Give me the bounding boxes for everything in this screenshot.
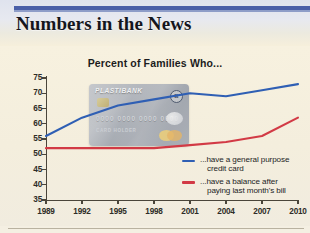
y-tick-label: 65	[16, 104, 42, 113]
card-bank-mark-icon: B	[170, 90, 183, 103]
legend-label: ...have a balance afterpaying last month…	[200, 177, 308, 196]
x-tick-label: 1992	[65, 207, 99, 216]
card-logo-right-icon	[167, 130, 182, 141]
x-tick-label: 2010	[281, 207, 310, 216]
legend-label: ...have a general purposecredit card	[200, 155, 308, 174]
legend-item: ...have a balance afterpaying last month…	[182, 177, 308, 196]
card-holder-text: CARD HOLDER	[96, 128, 137, 133]
y-tick-label: 35	[16, 195, 42, 204]
x-tick-label: 1995	[101, 207, 135, 216]
y-axis-line	[46, 76, 47, 202]
y-tick-label: 70	[16, 88, 42, 97]
legend-swatch-red	[182, 181, 195, 183]
x-tick	[261, 200, 262, 204]
y-tick-label: 40	[16, 180, 42, 189]
y-tick-label: 45	[16, 165, 42, 174]
y-tick	[42, 77, 46, 78]
chart-title: Percent of Families Who...	[0, 57, 310, 69]
y-tick	[42, 123, 46, 124]
numbers-in-the-news-infobox: Numbers in the News Percent of Families …	[0, 0, 310, 233]
header-accent-bar-secondary	[14, 10, 310, 12]
legend-item: ...have a general purposecredit card	[182, 155, 308, 174]
y-tick-label: 55	[16, 134, 42, 143]
chart-legend: ...have a general purposecredit card ...…	[182, 155, 308, 199]
y-tick-label: 75	[16, 73, 42, 82]
x-tick	[153, 200, 154, 204]
bottom-divider	[8, 228, 304, 229]
card-chip-icon	[97, 98, 109, 107]
x-tick-label: 2001	[173, 207, 207, 216]
card-brand-label: PLASTIBANK	[95, 87, 143, 94]
y-tick	[42, 93, 46, 94]
y-tick-label: 50	[16, 149, 42, 158]
x-tick	[189, 200, 190, 204]
x-tick-label: 2007	[245, 207, 279, 216]
x-tick	[45, 200, 46, 204]
x-tick-label: 1998	[137, 207, 171, 216]
x-tick	[81, 200, 82, 204]
y-tick	[42, 169, 46, 170]
y-tick-label: 60	[16, 119, 42, 128]
header-banner: Numbers in the News	[0, 0, 310, 46]
y-tick	[42, 154, 46, 155]
x-tick-label: 1989	[29, 207, 63, 216]
y-tick	[42, 184, 46, 185]
x-tick-label: 2004	[209, 207, 243, 216]
page-title: Numbers in the News	[16, 13, 192, 35]
y-tick	[42, 138, 46, 139]
x-tick	[297, 200, 298, 204]
legend-swatch-blue	[182, 160, 195, 162]
x-tick	[117, 200, 118, 204]
card-hologram-icon	[166, 112, 183, 125]
x-tick	[225, 200, 226, 204]
credit-card-graphic: PLASTIBANK 0000 0000 0000 0000 CARD HOLD…	[89, 84, 189, 146]
y-tick	[42, 108, 46, 109]
